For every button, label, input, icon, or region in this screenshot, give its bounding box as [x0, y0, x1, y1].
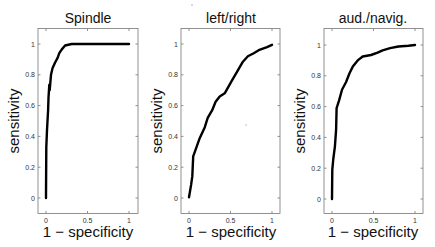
y-tick-label: 1	[174, 41, 178, 48]
panel-title: Spindle	[65, 10, 112, 26]
x-axis-label: 1 − specificity	[328, 223, 419, 240]
y-axis-label: sensitivity	[5, 88, 22, 154]
axes: 00.5100.20.40.60.81	[168, 29, 280, 224]
roc-curve	[332, 45, 415, 199]
panel-title: left/right	[206, 10, 256, 26]
y-tick-label: 0	[317, 196, 321, 203]
y-tick-label: 0	[174, 195, 178, 202]
y-axis-label: sensitivity	[148, 88, 165, 154]
y-tick-label: 0	[31, 195, 35, 202]
y-tick-label: 0.2	[168, 164, 178, 171]
y-tick-label: 0.6	[168, 102, 178, 109]
y-axis-label: sensitivity	[291, 88, 308, 154]
y-tick-label: 0.2	[25, 164, 35, 171]
panel-aud-navig: aud./navig. 00.5100.20.40.60.81 1 − spec…	[291, 10, 423, 240]
y-tick-label: 0.8	[311, 72, 321, 79]
roc-curve	[189, 45, 272, 197]
x-axis-label: 1 − specificity	[43, 223, 134, 240]
stray-dot	[191, 4, 192, 5]
y-tick-label: 0.2	[311, 165, 321, 172]
y-tick-label: 1	[31, 41, 35, 48]
plot-area	[181, 29, 280, 214]
axes: 00.5100.20.40.60.81	[25, 29, 138, 224]
y-tick-label: 0.6	[311, 103, 321, 110]
y-tick-label: 0.8	[168, 71, 178, 78]
roc-curve	[46, 44, 129, 198]
panel-left-right: left/right 00.5100.20.40.60.81 1 − speci…	[148, 10, 280, 240]
stray-dot	[245, 124, 246, 125]
y-tick-label: 0.4	[168, 133, 178, 140]
panel-title: aud./navig.	[339, 10, 408, 26]
x-axis-label: 1 − specificity	[186, 223, 277, 240]
axes: 00.5100.20.40.60.81	[311, 29, 423, 224]
roc-figure: Spindle 00.5100.20.40.60.81 1 − specific…	[0, 0, 435, 247]
plot-area	[324, 29, 423, 214]
y-tick-label: 0.4	[311, 134, 321, 141]
y-tick-label: 0.8	[25, 71, 35, 78]
plot-area	[38, 29, 138, 214]
y-tick-label: 1	[317, 42, 321, 49]
y-tick-label: 0.6	[25, 102, 35, 109]
panel-spindle: Spindle 00.5100.20.40.60.81 1 − specific…	[5, 10, 138, 240]
y-tick-label: 0.4	[25, 133, 35, 140]
